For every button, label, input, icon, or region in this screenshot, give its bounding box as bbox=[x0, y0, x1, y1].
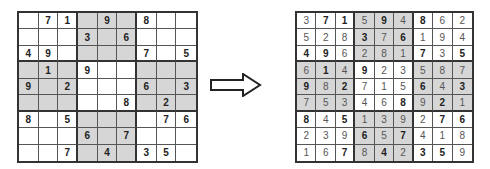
sudoku-cell bbox=[117, 62, 137, 78]
sudoku-cell: 6 bbox=[375, 95, 394, 111]
sudoku-cell bbox=[98, 112, 118, 128]
sudoku-cell bbox=[78, 112, 98, 128]
sudoku-cell: 9 bbox=[78, 62, 98, 78]
sudoku-cell: 1 bbox=[58, 13, 78, 29]
sudoku-cell: 3 bbox=[394, 62, 413, 78]
unsolved-sudoku-grid: 7198364975199263828576677435 bbox=[17, 11, 198, 163]
sudoku-cell bbox=[58, 29, 78, 45]
sudoku-cell: 7 bbox=[297, 95, 316, 111]
sudoku-cell: 6 bbox=[394, 29, 413, 45]
sudoku-cell bbox=[117, 46, 137, 62]
sudoku-cell bbox=[176, 29, 196, 45]
sudoku-cell bbox=[137, 29, 157, 45]
sudoku-cell: 6 bbox=[453, 112, 472, 128]
sudoku-cell bbox=[117, 13, 137, 29]
sudoku-cell bbox=[19, 95, 39, 111]
sudoku-cell bbox=[157, 13, 177, 29]
sudoku-cell bbox=[98, 95, 118, 111]
sudoku-cell bbox=[176, 128, 196, 144]
sudoku-cell bbox=[39, 145, 59, 161]
sudoku-cell bbox=[39, 29, 59, 45]
sudoku-cell: 9 bbox=[19, 79, 39, 95]
sudoku-cell: 8 bbox=[19, 112, 39, 128]
sudoku-cell: 7 bbox=[414, 46, 433, 62]
sudoku-cell bbox=[157, 29, 177, 45]
sudoku-cell: 3 bbox=[375, 112, 394, 128]
sudoku-cell: 9 bbox=[355, 62, 374, 78]
sudoku-cell: 8 bbox=[297, 112, 316, 128]
sudoku-cell: 9 bbox=[39, 46, 59, 62]
sudoku-cell: 4 bbox=[433, 79, 452, 95]
sudoku-cell: 7 bbox=[375, 29, 394, 45]
sudoku-cell: 7 bbox=[157, 112, 177, 128]
sudoku-cell: 1 bbox=[355, 112, 374, 128]
sudoku-cell bbox=[137, 62, 157, 78]
sudoku-cell: 2 bbox=[336, 79, 355, 95]
sudoku-cell: 8 bbox=[355, 145, 374, 161]
sudoku-cell: 4 bbox=[355, 95, 374, 111]
sudoku-cell: 7 bbox=[137, 46, 157, 62]
sudoku-cell: 1 bbox=[39, 62, 59, 78]
sudoku-cell: 8 bbox=[414, 13, 433, 29]
sudoku-cell: 8 bbox=[375, 46, 394, 62]
sudoku-cell: 7 bbox=[336, 145, 355, 161]
sudoku-cell: 5 bbox=[157, 145, 177, 161]
sudoku-cell: 7 bbox=[117, 128, 137, 144]
sudoku-cell: 5 bbox=[453, 46, 472, 62]
sudoku-cell bbox=[19, 145, 39, 161]
sudoku-cell bbox=[19, 13, 39, 29]
sudoku-cell: 6 bbox=[433, 13, 452, 29]
sudoku-cell bbox=[117, 145, 137, 161]
sudoku-cell: 2 bbox=[414, 112, 433, 128]
sudoku-cell: 6 bbox=[297, 62, 316, 78]
sudoku-cell: 4 bbox=[316, 112, 335, 128]
sudoku-cell: 2 bbox=[58, 79, 78, 95]
sudoku-cell bbox=[117, 79, 137, 95]
sudoku-cell bbox=[157, 46, 177, 62]
sudoku-cell: 7 bbox=[58, 145, 78, 161]
sudoku-cell bbox=[58, 46, 78, 62]
sudoku-cell bbox=[78, 95, 98, 111]
sudoku-cell bbox=[19, 62, 39, 78]
sudoku-cell: 7 bbox=[433, 112, 452, 128]
sudoku-cell: 2 bbox=[355, 46, 374, 62]
sudoku-cell: 7 bbox=[453, 62, 472, 78]
sudoku-cell bbox=[39, 128, 59, 144]
sudoku-cell: 2 bbox=[297, 128, 316, 144]
sudoku-cell bbox=[157, 128, 177, 144]
sudoku-cell: 8 bbox=[137, 13, 157, 29]
sudoku-cell bbox=[176, 62, 196, 78]
sudoku-cell: 7 bbox=[394, 128, 413, 144]
sudoku-cell bbox=[58, 62, 78, 78]
sudoku-cell: 6 bbox=[316, 145, 335, 161]
sudoku-cell: 4 bbox=[414, 128, 433, 144]
sudoku-cell: 8 bbox=[453, 128, 472, 144]
sudoku-cell: 7 bbox=[355, 79, 374, 95]
sudoku-cell: 3 bbox=[297, 13, 316, 29]
sudoku-cell: 9 bbox=[316, 46, 335, 62]
sudoku-cell: 4 bbox=[453, 29, 472, 45]
sudoku-cell bbox=[39, 79, 59, 95]
sudoku-cell: 1 bbox=[414, 29, 433, 45]
sudoku-cell: 1 bbox=[316, 62, 335, 78]
sudoku-cell: 2 bbox=[375, 62, 394, 78]
sudoku-cell bbox=[157, 79, 177, 95]
sudoku-cell bbox=[98, 62, 118, 78]
sudoku-cell: 7 bbox=[39, 13, 59, 29]
sudoku-cell: 6 bbox=[355, 128, 374, 144]
sudoku-cell: 5 bbox=[316, 95, 335, 111]
sudoku-cell: 5 bbox=[336, 112, 355, 128]
sudoku-cell: 4 bbox=[98, 145, 118, 161]
sudoku-cell: 3 bbox=[316, 128, 335, 144]
sudoku-cell: 9 bbox=[433, 29, 452, 45]
sudoku-cell: 7 bbox=[316, 13, 335, 29]
sudoku-cell: 5 bbox=[176, 46, 196, 62]
sudoku-cell: 6 bbox=[78, 128, 98, 144]
sudoku-cell bbox=[137, 112, 157, 128]
sudoku-cell: 1 bbox=[453, 95, 472, 111]
sudoku-cell: 2 bbox=[157, 95, 177, 111]
sudoku-cell bbox=[39, 95, 59, 111]
sudoku-cell: 4 bbox=[375, 145, 394, 161]
sudoku-cell bbox=[19, 29, 39, 45]
sudoku-cell: 3 bbox=[355, 29, 374, 45]
